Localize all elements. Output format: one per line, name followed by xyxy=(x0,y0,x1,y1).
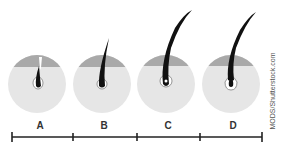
timeline xyxy=(12,132,262,142)
follicle-b xyxy=(60,38,150,113)
stage-label-a: A xyxy=(30,120,50,131)
image-credit: MODS/Shutterstock.com xyxy=(265,32,279,150)
stage-label-d: D xyxy=(223,120,243,131)
hair-growth-diagram: A B C D MODS/Shutterstock.com xyxy=(0,0,284,161)
stage-label-c: C xyxy=(158,120,178,131)
stage-label-b: B xyxy=(94,120,114,131)
diagram-canvas xyxy=(0,0,284,161)
follicle-a xyxy=(0,55,80,113)
credit-text: MODS/Shutterstock.com xyxy=(269,52,276,129)
follicle-c xyxy=(130,10,210,113)
follicle-d xyxy=(195,12,275,113)
